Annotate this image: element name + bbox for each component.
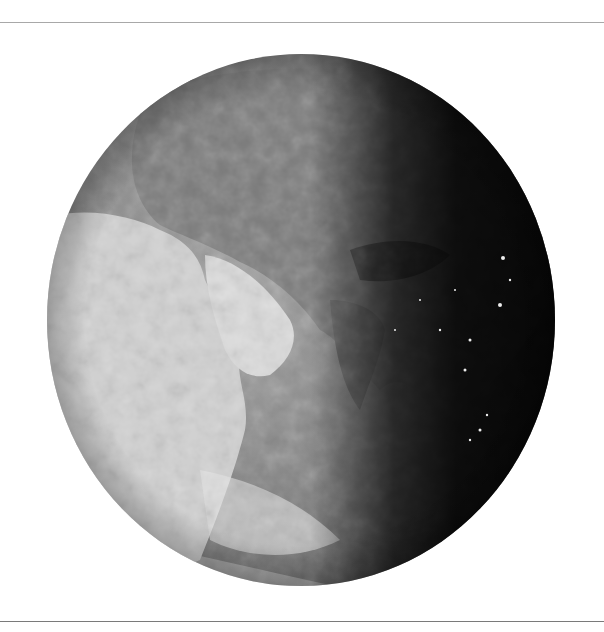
bottom-divider bbox=[0, 621, 604, 622]
atmosphere-limb bbox=[47, 54, 555, 586]
earth-globe bbox=[0, 0, 604, 632]
